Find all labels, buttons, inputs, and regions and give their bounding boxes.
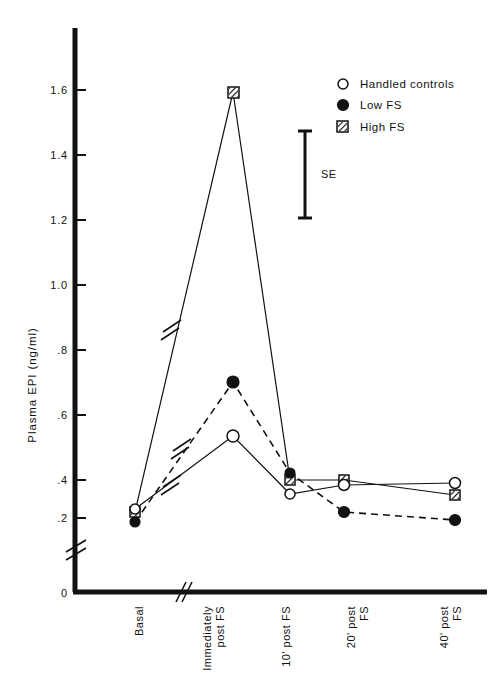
data-point-handled-10 — [285, 489, 295, 499]
series-low-fs — [135, 382, 455, 522]
x-tick-label-10-post-fs: 10' post FS — [280, 606, 292, 667]
x-tick-label-40-post-fs: 40' post FS — [438, 606, 463, 648]
x-tick-label-immediately-post-fs: Immediately post FS — [201, 606, 226, 671]
line-chart: 1.6 1.4 1.2 1.0 .8 .6 .4 .2 0 Plasma EPI… — [0, 0, 495, 674]
filled-circle-icon — [338, 100, 349, 111]
figure-container: 1.6 1.4 1.2 1.0 .8 .6 .4 .2 0 Plasma EPI… — [0, 0, 495, 674]
data-point-low-fs-40 — [450, 515, 461, 526]
data-point-low-fs-immediately — [227, 376, 239, 388]
x-axis-tick-labels: Basal Immediately post FS 10' post FS 20… — [133, 606, 463, 671]
legend-label-high-fs: High FS — [360, 121, 405, 133]
data-point-handled-basal — [130, 504, 140, 514]
legend-item-handled-controls: Handled controls — [338, 78, 454, 90]
y-tick-label-1.6: 1.6 — [50, 84, 68, 96]
se-error-bar: SE — [298, 131, 337, 218]
data-point-low-fs-20 — [339, 507, 350, 518]
y-axis-title: Plasma EPI (ng/ml) — [26, 327, 38, 442]
legend-item-high-fs: High FS — [337, 121, 405, 133]
data-point-low-fs-basal — [130, 517, 140, 527]
data-point-handled-40 — [450, 478, 461, 489]
svg-text:post FS: post FS — [214, 606, 226, 647]
y-tick-label-0: 0 — [61, 587, 68, 599]
svg-text:40' post: 40' post — [438, 606, 450, 648]
svg-text:FS: FS — [451, 606, 463, 621]
series-low-fs-markers — [130, 376, 461, 527]
y-tick-label-1.0: 1.0 — [50, 279, 68, 291]
data-point-low-fs-10 — [285, 468, 295, 478]
legend: Handled controls Low FS High FS — [337, 78, 454, 133]
legend-label-low-fs: Low FS — [360, 99, 402, 111]
legend-item-low-fs: Low FS — [338, 99, 403, 111]
svg-text:FS: FS — [358, 606, 370, 621]
y-tick-label-1.4: 1.4 — [50, 149, 68, 161]
series-low-fs-line — [135, 382, 455, 522]
data-point-high-fs-40 — [450, 490, 460, 500]
data-point-handled-20 — [339, 480, 350, 491]
series-low-fs-break-mark — [171, 439, 191, 459]
y-tick-label-1.2: 1.2 — [50, 214, 68, 226]
y-tick-label-0.4: .4 — [57, 474, 68, 486]
y-tick-label-0.8: .8 — [57, 344, 68, 356]
data-point-handled-immediately — [227, 430, 239, 442]
legend-label-handled-controls: Handled controls — [360, 78, 454, 90]
open-circle-icon — [338, 79, 348, 89]
series-high-fs-line — [135, 92, 455, 512]
se-label: SE — [321, 168, 337, 180]
y-tick-label-0.6: .6 — [57, 409, 68, 421]
data-point-high-fs-immediately — [228, 87, 239, 98]
y-axis-tick-labels: 1.6 1.4 1.2 1.0 .8 .6 .4 .2 0 — [50, 84, 68, 599]
x-tick-label-20-post-fs: 20' post FS — [345, 606, 370, 648]
svg-text:20' post: 20' post — [345, 606, 357, 648]
y-tick-label-0.2: .2 — [57, 512, 68, 524]
series-high-fs — [135, 92, 455, 512]
x-tick-label-basal: Basal — [133, 606, 145, 636]
series-handled-controls-break-mark — [161, 475, 181, 495]
svg-text:Immediately: Immediately — [201, 606, 213, 671]
